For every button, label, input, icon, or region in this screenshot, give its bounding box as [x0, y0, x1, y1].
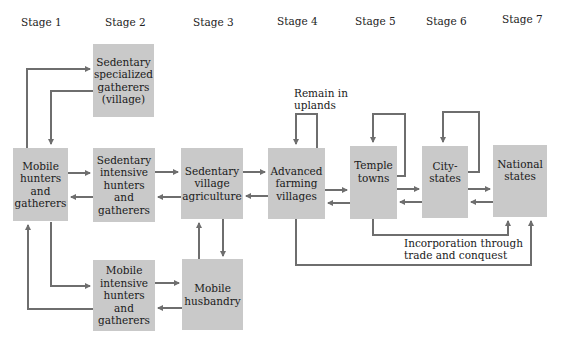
arrow-specialized-to-mobile [51, 91, 93, 144]
arrow-mobile-to-mobile-intensive [51, 222, 90, 286]
stage-7-label: Stage 7 [502, 13, 543, 25]
node-advanced-farming-villages: Advanced farming villages [268, 148, 325, 219]
node-label: National states [497, 158, 543, 183]
node-national-states: National states [493, 145, 547, 217]
node-label: Advanced farming villages [270, 165, 322, 203]
stage-4-label: Stage 4 [277, 15, 318, 27]
node-sedentary-village-agriculture: Sedentary village agriculture [181, 148, 243, 219]
remain-in-uplands-label: Remain in uplands [294, 87, 348, 111]
node-label: Mobile intensive hunters and gatherers [98, 264, 150, 327]
node-mobile-intensive-hunters: Mobile intensive hunters and gatherers [93, 260, 155, 331]
stage-1-label: Stage 1 [21, 16, 62, 28]
stage-2-label: Stage 2 [105, 16, 146, 28]
node-label: Temple towns [354, 159, 393, 184]
node-sedentary-specialized-gatherers: Sedentary specialized gatherers (village… [93, 44, 154, 117]
node-label: City- states [429, 160, 461, 185]
stage-5-label: Stage 5 [355, 15, 396, 27]
arrow-mobile-intensive-to-mobile [28, 225, 93, 309]
incorporation-label: Incorporation through trade and conquest [404, 237, 523, 261]
arrow-temple-to-national [373, 219, 508, 235]
stage-3-label: Stage 3 [193, 16, 234, 28]
node-label: Mobile husbandry [184, 282, 240, 307]
node-temple-towns: Temple towns [350, 146, 397, 219]
node-label: Sedentary specialized gatherers (village… [94, 56, 153, 106]
stage-6-label: Stage 6 [426, 15, 467, 27]
node-city-states: City- states [422, 146, 468, 218]
node-label: Sedentary intensive hunters and gatherer… [97, 154, 152, 217]
arrow-mobile-to-specialized [27, 69, 90, 148]
node-mobile-husbandry: Mobile husbandry [182, 259, 243, 330]
node-label: Mobile hunters and gatherers [15, 160, 67, 210]
node-mobile-hunters-gatherers: Mobile hunters and gatherers [13, 148, 68, 221]
node-sedentary-intensive-hunters: Sedentary intensive hunters and gatherer… [93, 148, 155, 222]
node-label: Sedentary village agriculture [182, 165, 242, 203]
